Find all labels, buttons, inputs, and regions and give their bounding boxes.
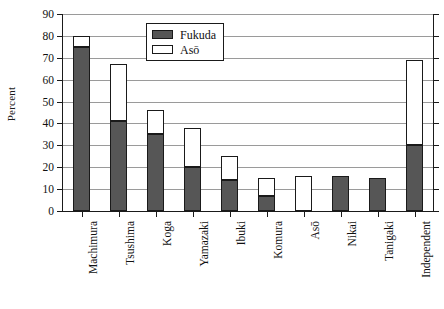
y-axis-tick-right xyxy=(433,189,439,190)
y-axis-tick-label: 20 xyxy=(43,161,55,173)
bar-segment-fukuda xyxy=(147,134,164,211)
y-axis-tick-label: 80 xyxy=(43,30,55,42)
x-axis-tick xyxy=(119,211,120,217)
bar-segment-aso xyxy=(221,156,238,180)
bar-group xyxy=(110,14,127,211)
x-axis-tick-label: Ibuki xyxy=(235,221,247,245)
y-axis-tick xyxy=(57,189,63,190)
x-axis-tick xyxy=(230,211,231,217)
y-axis-tick-right xyxy=(433,145,439,146)
y-axis-tick xyxy=(57,167,63,168)
y-axis-tick xyxy=(57,14,63,15)
y-axis-tick-label: 40 xyxy=(43,117,55,129)
x-axis-tick-label: Asō xyxy=(309,221,321,240)
x-axis-tick xyxy=(156,211,157,217)
y-axis-tick xyxy=(57,123,63,124)
x-axis-tick xyxy=(193,211,194,217)
stacked-bar-chart: Percent 0102030405060708090MachimuraTsus… xyxy=(0,0,444,309)
y-axis-tick-right xyxy=(433,211,439,212)
y-axis-tick-right xyxy=(433,14,439,15)
bar-segment-aso xyxy=(110,64,127,121)
bar-segment-aso xyxy=(406,60,423,145)
bar-segment-aso xyxy=(258,178,275,196)
bar-segment-fukuda xyxy=(258,196,275,211)
x-axis-tick-label: Tsushima xyxy=(124,221,136,265)
bar-segment-fukuda xyxy=(73,47,90,211)
x-axis-tick-label: Komura xyxy=(272,221,284,259)
x-axis-tick-label: Machimura xyxy=(87,221,99,274)
fukuda-swatch-icon xyxy=(152,30,173,39)
bar-segment-aso xyxy=(295,176,312,211)
y-axis-tick xyxy=(57,58,63,59)
y-axis-tick-right xyxy=(433,123,439,124)
y-axis-tick-right xyxy=(433,80,439,81)
y-axis-tick xyxy=(57,211,63,212)
x-axis-tick-label: Tanigaki xyxy=(383,221,395,261)
y-axis-tick-right xyxy=(433,36,439,37)
bar-segment-aso xyxy=(73,36,90,47)
x-axis-tick xyxy=(378,211,379,217)
bar-segment-fukuda xyxy=(369,178,386,211)
legend-label-aso: Asō xyxy=(180,44,199,56)
bar-group xyxy=(369,14,386,211)
x-axis-tick xyxy=(267,211,268,217)
legend-item-fukuda: Fukuda xyxy=(152,27,216,42)
x-axis-tick xyxy=(82,211,83,217)
plot-area: 0102030405060708090MachimuraTsushimaKoga… xyxy=(62,14,434,212)
y-axis-tick-right xyxy=(433,167,439,168)
bar-segment-aso xyxy=(147,110,164,134)
x-axis-tick-label: Nikai xyxy=(346,221,358,247)
x-axis-tick xyxy=(304,211,305,217)
chart-legend: Fukuda Asō xyxy=(146,23,224,61)
bar-segment-fukuda xyxy=(406,145,423,211)
y-axis-tick xyxy=(57,145,63,146)
bar-segment-fukuda xyxy=(184,167,201,211)
y-axis-tick-label: 10 xyxy=(43,183,55,195)
x-axis-tick xyxy=(341,211,342,217)
bar-segment-fukuda xyxy=(110,121,127,211)
bar-segment-aso xyxy=(184,128,201,167)
x-axis-tick xyxy=(415,211,416,217)
y-axis-tick xyxy=(57,80,63,81)
bar-group xyxy=(73,14,90,211)
x-axis-tick-label: Koga xyxy=(161,221,173,246)
y-axis-tick-label: 60 xyxy=(43,74,55,86)
aso-swatch-icon xyxy=(152,45,173,54)
bar-group xyxy=(258,14,275,211)
y-axis-tick-right xyxy=(433,102,439,103)
x-axis-tick-label: Independent xyxy=(420,221,432,278)
y-axis-tick-right xyxy=(433,58,439,59)
y-axis-tick-label: 70 xyxy=(43,52,55,64)
legend-item-aso: Asō xyxy=(152,42,216,57)
y-axis-tick-label: 50 xyxy=(43,96,55,108)
bar-group xyxy=(295,14,312,211)
y-axis-tick xyxy=(57,102,63,103)
bar-segment-fukuda xyxy=(332,176,349,211)
bar-segment-fukuda xyxy=(221,180,238,211)
bar-group xyxy=(332,14,349,211)
y-axis-tick-label: 30 xyxy=(43,139,55,151)
y-axis-tick xyxy=(57,36,63,37)
y-axis-title: Percent xyxy=(5,69,17,139)
bar-group xyxy=(406,14,423,211)
y-axis-tick-label: 0 xyxy=(48,205,54,217)
x-axis-tick-label: Yamazaki xyxy=(198,221,210,266)
legend-label-fukuda: Fukuda xyxy=(180,29,216,41)
y-axis-tick-label: 90 xyxy=(43,8,55,20)
